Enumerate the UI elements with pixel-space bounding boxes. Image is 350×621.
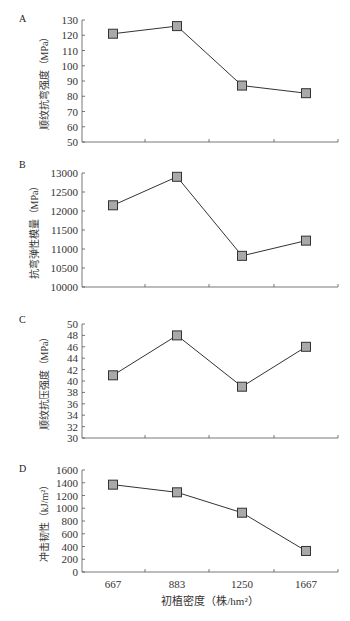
axis-lines xyxy=(82,20,338,142)
square-marker xyxy=(109,29,118,38)
y-tick-label: 1600 xyxy=(56,464,79,476)
y-tick-label: 1400 xyxy=(56,477,79,489)
y-tick-label: 10000 xyxy=(51,281,79,293)
series-line xyxy=(113,335,306,386)
x-tick-label: 883 xyxy=(169,578,186,590)
y-tick-label: 32 xyxy=(67,421,78,433)
panel-letter: D xyxy=(19,463,26,474)
y-tick-label: 120 xyxy=(62,29,79,41)
x-tick-label: 1667 xyxy=(295,578,318,590)
y-tick-label: 130 xyxy=(62,14,79,26)
y-tick-label: 60 xyxy=(67,121,79,133)
y-tick-label: 100 xyxy=(62,60,79,72)
y-tick-label: 36 xyxy=(67,398,79,410)
axis-lines xyxy=(82,173,338,287)
y-axis-label: 冲击韧性（kJ/m²） xyxy=(38,480,50,562)
y-tick-label: 80 xyxy=(67,90,79,102)
square-marker xyxy=(109,371,118,380)
square-marker xyxy=(173,172,182,181)
y-tick-label: 46 xyxy=(67,341,79,353)
series-line xyxy=(113,485,306,551)
series-line xyxy=(113,26,306,93)
y-tick-label: 1000 xyxy=(56,502,79,514)
figure-canvas: A5060708090100110120130顺纹抗弯强度（MPa）B10000… xyxy=(0,0,350,621)
y-tick-label: 600 xyxy=(62,528,79,540)
y-axis-label: 顺纹抗弯强度（MPa） xyxy=(38,32,50,131)
y-tick-label: 42 xyxy=(67,364,78,376)
square-marker xyxy=(109,201,118,210)
series-line xyxy=(113,177,306,256)
x-tick-label: 667 xyxy=(105,578,122,590)
y-axis-label: 抗弯弹性模量（MPa） xyxy=(28,181,40,280)
y-tick-label: 0 xyxy=(73,566,79,578)
square-marker xyxy=(173,488,182,497)
x-tick-label: 1250 xyxy=(231,578,254,590)
y-tick-label: 90 xyxy=(67,75,79,87)
panel-a: A5060708090100110120130顺纹抗弯强度（MPa） xyxy=(19,13,338,148)
square-marker xyxy=(238,81,247,90)
square-marker xyxy=(173,331,182,340)
square-marker xyxy=(302,236,311,245)
square-marker xyxy=(238,382,247,391)
y-tick-label: 38 xyxy=(67,386,79,398)
y-tick-label: 12000 xyxy=(51,205,79,217)
y-tick-label: 10500 xyxy=(51,262,79,274)
panel-c: C3032343638404244464850顺纹抗压强度（MPa） xyxy=(19,314,338,444)
axis-lines xyxy=(82,324,338,438)
y-tick-label: 110 xyxy=(62,45,79,57)
square-marker xyxy=(302,89,311,98)
y-tick-label: 13000 xyxy=(51,167,79,179)
y-tick-label: 200 xyxy=(62,553,79,565)
y-tick-label: 1200 xyxy=(56,490,79,502)
panel-letter: A xyxy=(19,13,27,24)
x-axis-label: 初植密度（株/hm²） xyxy=(161,594,258,607)
y-tick-label: 12500 xyxy=(51,186,79,198)
panel-letter: C xyxy=(19,314,26,325)
y-tick-label: 48 xyxy=(67,329,79,341)
square-marker xyxy=(173,22,182,31)
y-tick-label: 11500 xyxy=(51,224,79,236)
y-tick-label: 400 xyxy=(62,541,79,553)
panel-letter: B xyxy=(19,159,26,170)
panel-d: D02004006008001000120014001600冲击韧性（kJ/m²… xyxy=(19,463,338,607)
panel-b: B10000105001100011500120001250013000抗弯弹性… xyxy=(19,159,338,293)
y-tick-label: 44 xyxy=(67,352,79,364)
y-tick-label: 34 xyxy=(67,409,79,421)
square-marker xyxy=(302,546,311,555)
y-tick-label: 30 xyxy=(67,432,79,444)
y-tick-label: 50 xyxy=(67,136,79,148)
square-marker xyxy=(109,480,118,489)
square-marker xyxy=(238,251,247,260)
y-tick-label: 800 xyxy=(62,515,79,527)
square-marker xyxy=(238,508,247,517)
y-tick-label: 70 xyxy=(67,106,79,118)
square-marker xyxy=(302,342,311,351)
y-tick-label: 11000 xyxy=(51,243,79,255)
y-tick-label: 40 xyxy=(67,375,79,387)
y-tick-label: 50 xyxy=(67,318,79,330)
y-axis-label: 顺纹抗压强度（MPa） xyxy=(38,332,50,431)
